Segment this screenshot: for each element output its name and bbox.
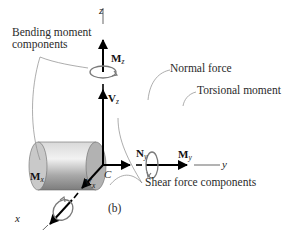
Vz-label: Vz — [108, 92, 119, 106]
bending-moment-label-line2: components — [12, 38, 68, 51]
centroid-label: C — [104, 168, 112, 180]
x-axis-line — [22, 225, 48, 230]
y-axis-label: y — [221, 158, 227, 170]
Mz-label: Mz — [111, 52, 124, 66]
x-axis-dash — [74, 193, 78, 198]
normal-force-leader — [148, 70, 170, 100]
x-axis-label: x — [14, 212, 20, 224]
z-axis-label: z — [98, 4, 104, 16]
torsional-leader — [183, 92, 196, 106]
figure-caption: (b) — [108, 202, 122, 215]
bending-leader-z — [40, 57, 88, 68]
normal-force-label: Normal force — [170, 62, 232, 74]
internal-loadings-diagram: Bending moment components Normal force T… — [0, 0, 288, 230]
shear-leader-x — [110, 175, 142, 185]
shear-force-label: Shear force components — [145, 176, 257, 189]
torsional-moment-label: Torsional moment — [197, 84, 282, 96]
My-label: My — [178, 148, 192, 162]
Ny-label: Ny — [136, 147, 148, 161]
